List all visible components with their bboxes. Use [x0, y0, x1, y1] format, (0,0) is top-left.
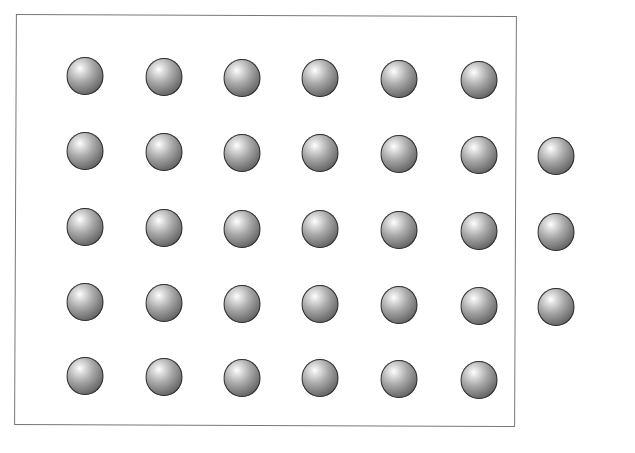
sphere-icon — [67, 57, 104, 95]
sphere-icon — [224, 134, 261, 172]
sphere-icon — [302, 59, 339, 97]
sphere-icon — [381, 135, 418, 173]
sphere-icon — [224, 59, 261, 97]
sphere-icon — [381, 60, 418, 98]
sphere-icon — [146, 58, 183, 96]
sphere-icon — [67, 132, 104, 170]
sphere-icon — [224, 359, 261, 397]
sphere-icon — [538, 288, 575, 326]
sphere-icon — [146, 358, 183, 396]
sphere-icon — [146, 284, 183, 322]
sphere-icon — [302, 285, 339, 323]
sphere-icon — [302, 210, 339, 248]
sphere-icon — [302, 359, 339, 397]
sphere-icon — [538, 213, 575, 251]
sphere-icon — [461, 61, 498, 99]
sphere-icon — [381, 360, 418, 398]
sphere-icon — [67, 283, 104, 321]
sphere-icon — [461, 287, 498, 325]
sphere-icon — [302, 134, 339, 172]
sphere-icon — [538, 137, 575, 175]
sphere-icon — [67, 357, 104, 395]
sphere-icon — [146, 133, 183, 171]
sphere-icon — [461, 361, 498, 399]
sphere-icon — [461, 136, 498, 174]
sphere-icon — [461, 212, 498, 250]
sphere-icon — [381, 286, 418, 324]
sphere-icon — [224, 285, 261, 323]
sphere-icon — [224, 210, 261, 248]
sphere-icon — [381, 211, 418, 249]
sphere-icon — [146, 209, 183, 247]
sphere-icon — [67, 208, 104, 246]
